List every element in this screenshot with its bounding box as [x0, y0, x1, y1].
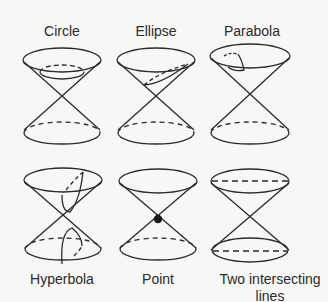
point-double-cone [119, 169, 197, 260]
circle-double-cone [23, 48, 101, 144]
point-section [154, 215, 162, 223]
label-circle: Circle [44, 24, 80, 38]
label-point: Point [142, 272, 174, 286]
parabola-double-cone [210, 44, 290, 144]
two-lines-double-cone [211, 169, 289, 262]
label-two-intersecting: Two intersecting [219, 272, 320, 286]
label-ellipse: Ellipse [135, 24, 176, 38]
ellipse-double-cone [117, 48, 195, 144]
label-lines: lines [256, 289, 285, 302]
label-hyperbola: Hyperbola [30, 272, 94, 286]
hyperbola-section [62, 172, 83, 264]
conic-sections-diagram [0, 0, 328, 302]
hyperbola-double-cone [24, 168, 102, 264]
label-parabola: Parabola [224, 24, 280, 38]
ellipse-section [144, 64, 188, 85]
